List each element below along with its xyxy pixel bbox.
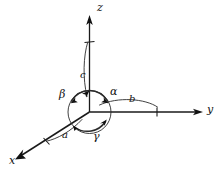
x-axis-label: x [9,155,15,166]
b-parameter-label: b [129,94,135,104]
gamma-angle-label: γ [93,131,100,142]
alpha-arc-group [90,91,109,104]
c-parameter-label: c [80,70,86,80]
x-axis-group [15,112,90,160]
z-axis-label: z [97,2,103,13]
z-axis-tick [85,42,95,43]
beta-angle-label: β [59,89,65,100]
y-axis-label: y [207,104,213,115]
beta-arc-group [71,91,90,104]
x-axis-line [22,112,90,155]
alpha-angle-label: α [110,86,117,97]
x-axis-arrowhead [15,150,26,160]
a-parameter-label: a [62,130,68,140]
z-axis-group [84,15,94,112]
crystal-axes-figure: z y x c b a α β γ [0,0,220,169]
